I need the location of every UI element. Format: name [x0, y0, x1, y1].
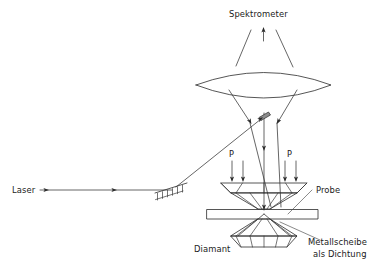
reflected-laser-ray — [176, 117, 263, 187]
spectrometer-rays — [236, 27, 293, 67]
metal-gasket-plate — [207, 210, 318, 220]
lower-diamond-anvil — [231, 219, 297, 247]
gasket-label-line1: Metallscheibe — [308, 237, 367, 247]
diamond-label: Diamant — [194, 244, 231, 254]
laser-label: Laser — [12, 185, 36, 195]
gasket-label-line2: als Dichtung — [313, 249, 367, 259]
probe-label: Probe — [316, 185, 340, 195]
sample-divergent-rays — [238, 214, 290, 236]
diagram-canvas: Spektrometer Laser P P Probe Diamant Met… — [0, 0, 375, 269]
pressure-label-right: P — [287, 149, 292, 159]
pressure-label-left: P — [229, 149, 234, 159]
spectrometer-label: Spektrometer — [229, 9, 288, 19]
steering-mirror — [155, 183, 187, 200]
collection-lens — [196, 73, 331, 99]
optic-axis — [262, 113, 266, 210]
laser-beam — [40, 188, 172, 192]
optical-setup-schematic: Spektrometer Laser P P Probe Diamant Met… — [0, 0, 375, 269]
